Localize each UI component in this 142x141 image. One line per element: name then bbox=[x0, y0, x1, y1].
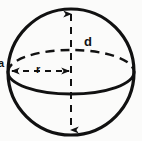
sphere-drawing bbox=[0, 0, 142, 141]
diameter-label: d bbox=[84, 35, 92, 48]
edge-label: a bbox=[0, 58, 4, 69]
sphere-diagram: d r a bbox=[0, 0, 142, 141]
radius-label: r bbox=[36, 64, 40, 75]
